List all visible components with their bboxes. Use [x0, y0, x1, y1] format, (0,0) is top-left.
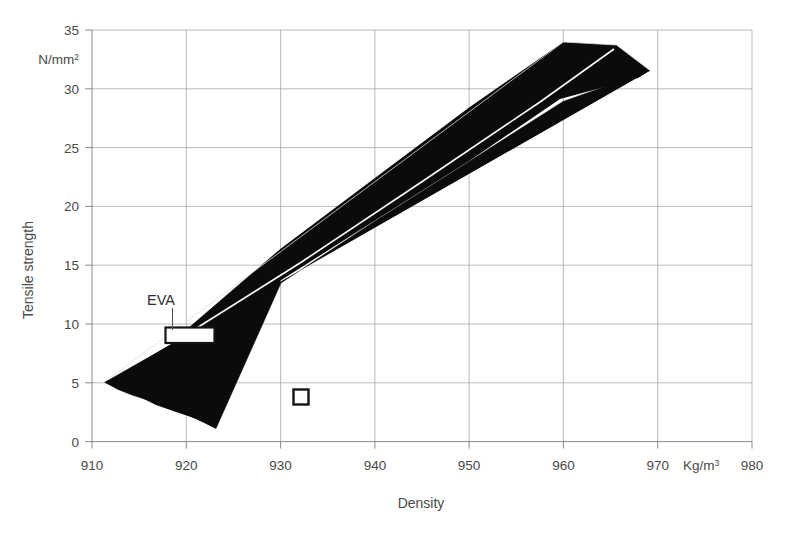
y-tick-label-30: 30 — [64, 82, 79, 97]
y-tickmarks — [85, 30, 92, 442]
y-tick-label-25: 25 — [64, 141, 79, 156]
y-axis-unit: N/mm2 — [38, 52, 79, 67]
eva-annotation-label: EVA — [147, 292, 175, 308]
grid-vertical — [186, 30, 752, 442]
y-axis-title: Tensile strength — [20, 221, 36, 319]
y-tick-label-20: 20 — [64, 199, 79, 214]
x-axis-unit: Kg/m3 — [683, 458, 720, 473]
y-unit-superscript: 2 — [74, 52, 79, 62]
y-unit-text: N/mm — [38, 52, 74, 67]
x-tick-labels: 910 920 930 940 950 960 970 980 — [81, 458, 764, 473]
chart-figure: EVA 35 30 25 20 15 10 5 0 N/mm2 910 920 … — [0, 0, 785, 535]
x-unit-text: Kg/m — [683, 458, 715, 473]
density-tensile-strength-chart: EVA 35 30 25 20 15 10 5 0 N/mm2 910 920 … — [0, 0, 785, 535]
y-tick-label-10: 10 — [64, 317, 79, 332]
x-tick-label-910: 910 — [81, 458, 104, 473]
y-tick-labels: 35 30 25 20 15 10 5 0 — [64, 23, 79, 450]
x-tick-label-950: 950 — [458, 458, 481, 473]
x-tick-label-960: 960 — [552, 458, 575, 473]
x-tick-label-920: 920 — [175, 458, 198, 473]
x-tick-label-940: 940 — [364, 458, 387, 473]
open-square-marker[interactable] — [294, 390, 309, 405]
svg-text:Kg/m3: Kg/m3 — [683, 458, 720, 473]
svg-text:N/mm2: N/mm2 — [38, 52, 79, 67]
x-tick-label-970: 970 — [646, 458, 669, 473]
x-tick-label-980: 980 — [741, 458, 764, 473]
x-tickmarks — [92, 442, 752, 449]
y-tick-label-5: 5 — [71, 376, 79, 391]
x-axis-title: Density — [398, 495, 445, 511]
y-tick-label-15: 15 — [64, 258, 79, 273]
y-tick-label-0: 0 — [71, 435, 79, 450]
x-tick-label-930: 930 — [269, 458, 292, 473]
y-tick-label-35: 35 — [64, 23, 79, 38]
x-unit-superscript: 3 — [715, 458, 720, 468]
